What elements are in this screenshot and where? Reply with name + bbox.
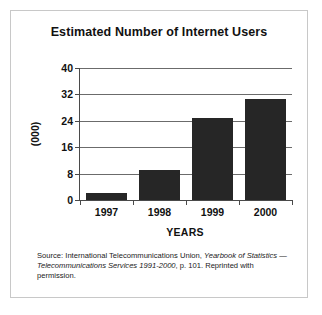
x-axis-tick-label: 1999 — [201, 206, 224, 218]
bar-slot — [239, 68, 292, 200]
y-axis-tick-label: 24 — [61, 115, 73, 127]
bar[interactable] — [86, 193, 126, 200]
x-axis-title: YEARS — [79, 226, 291, 238]
bar[interactable] — [245, 99, 285, 200]
x-axis-tick-mark — [186, 200, 187, 205]
x-axis-tick-mark — [133, 200, 134, 205]
y-axis-tick-label: 16 — [61, 141, 73, 153]
plot-area: 0816243240 1997199819992000 — [79, 68, 292, 201]
x-axis-tick-label: 2000 — [254, 206, 277, 218]
bar[interactable] — [192, 118, 232, 201]
source-note-lead: Source: International Telecommunications… — [37, 251, 204, 260]
y-axis-tick-label: 32 — [61, 88, 73, 100]
x-axis-tick-label: 1998 — [148, 206, 171, 218]
x-axis-tick-mark — [292, 200, 293, 205]
bar-slot — [133, 68, 186, 200]
x-axis-tick-label: 1997 — [95, 206, 118, 218]
y-axis-tick-label: 40 — [61, 62, 73, 74]
x-axis-tick-mark — [80, 200, 81, 205]
bar-slot — [80, 68, 133, 200]
bar-slot — [186, 68, 239, 200]
figure-frame: Estimated Number of Internet Users (000)… — [10, 10, 308, 298]
x-axis-tick-mark — [239, 200, 240, 205]
y-axis-tick-label: 8 — [67, 168, 73, 180]
y-axis-tick-label: 0 — [67, 194, 73, 206]
y-axis-title: (000) — [29, 122, 41, 147]
bars-layer — [80, 68, 292, 200]
source-note: Source: International Telecommunications… — [37, 251, 289, 282]
bar[interactable] — [139, 170, 179, 200]
